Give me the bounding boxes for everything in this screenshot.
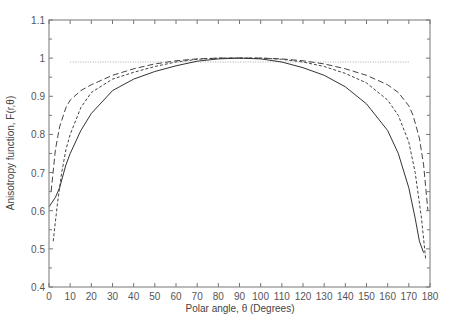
x-tick-label: 140 bbox=[337, 291, 354, 302]
x-axis-ticks: 0102030405060708090100110120130140150160… bbox=[46, 20, 439, 302]
y-tick-label: 0.5 bbox=[31, 244, 45, 255]
x-tick-label: 160 bbox=[379, 291, 396, 302]
x-tick-label: 110 bbox=[274, 291, 290, 302]
y-tick-label: 0.6 bbox=[31, 206, 45, 217]
x-tick-label: 130 bbox=[316, 291, 333, 302]
x-tick-label: 20 bbox=[86, 291, 98, 302]
x-tick-label: 120 bbox=[295, 291, 312, 302]
x-tick-label: 100 bbox=[252, 291, 269, 302]
anisotropy-chart: 0102030405060708090100110120130140150160… bbox=[0, 0, 450, 325]
x-tick-label: 70 bbox=[192, 291, 204, 302]
series-layer bbox=[49, 58, 428, 260]
x-tick-label: 150 bbox=[358, 291, 375, 302]
x-tick-label: 180 bbox=[422, 291, 439, 302]
x-tick-label: 50 bbox=[149, 291, 161, 302]
y-tick-label: 0.9 bbox=[31, 91, 45, 102]
x-tick-label: 90 bbox=[234, 291, 246, 302]
y-axis-label: Anisotropy function, F(r,θ) bbox=[5, 96, 16, 211]
y-tick-label: 1 bbox=[39, 53, 45, 64]
x-tick-label: 170 bbox=[400, 291, 417, 302]
x-tick-label: 60 bbox=[170, 291, 182, 302]
plot-frame bbox=[49, 20, 430, 287]
series-short-dash bbox=[53, 58, 426, 260]
series-solid bbox=[49, 58, 424, 253]
x-tick-label: 80 bbox=[213, 291, 225, 302]
x-axis-label: Polar angle, θ (Degrees) bbox=[186, 303, 295, 314]
series-long-dash bbox=[51, 58, 428, 211]
y-tick-label: 0.4 bbox=[31, 282, 45, 293]
x-tick-label: 40 bbox=[128, 291, 140, 302]
y-tick-label: 1.1 bbox=[31, 15, 45, 26]
x-tick-label: 0 bbox=[46, 291, 52, 302]
y-axis-ticks: 0.40.50.60.70.80.911.1 bbox=[31, 15, 430, 293]
x-tick-label: 10 bbox=[65, 291, 77, 302]
y-tick-label: 0.8 bbox=[31, 129, 45, 140]
x-tick-label: 30 bbox=[107, 291, 119, 302]
y-tick-label: 0.7 bbox=[31, 168, 45, 179]
